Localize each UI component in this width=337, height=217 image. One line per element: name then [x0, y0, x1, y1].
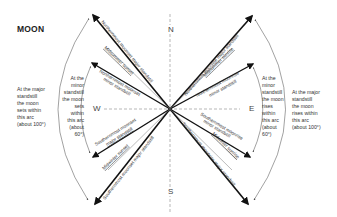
note-right-major: At the major standstill the moon rises w…	[292, 89, 334, 131]
note-left-minor: At the minor standstill the moon sets wi…	[56, 75, 84, 138]
ray-nw-major	[93, 15, 170, 109]
cardinal-east: E	[248, 104, 255, 113]
label-ne-midsummer: Midsummer sunrise	[202, 46, 235, 78]
label-nw-minor-1: Northernmost moonset	[98, 69, 141, 98]
cardinal-north: N	[167, 25, 175, 34]
cardinal-west: W	[92, 104, 102, 113]
note-left-major: At the major standstill the moon sets wi…	[17, 86, 51, 128]
cardinal-south: S	[167, 187, 174, 196]
moon-standstill-diagram: MOON	[0, 0, 337, 217]
ray-sw-minor	[93, 109, 170, 157]
note-right-minor: At the minor standstill the moon rises w…	[262, 75, 290, 138]
